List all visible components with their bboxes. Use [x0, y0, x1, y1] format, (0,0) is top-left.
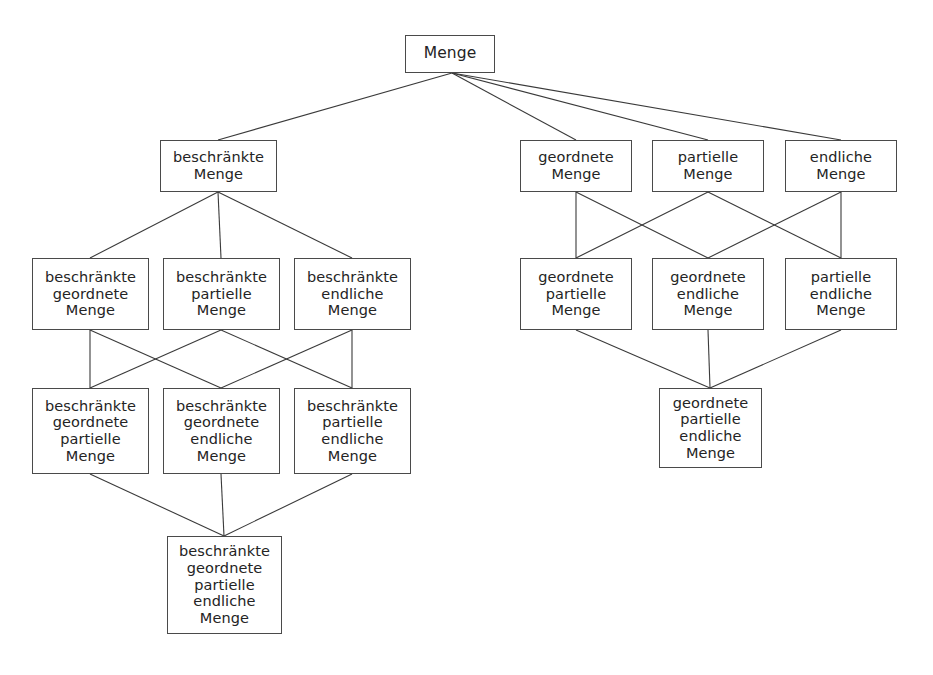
node-label-b-p-endliche: beschränkte partielle endliche Menge — [303, 398, 402, 465]
node-label-b-geordnete: beschränkte geordnete Menge — [41, 269, 140, 319]
node-label-b-partielle: beschränkte partielle Menge — [172, 269, 271, 319]
node-g-endliche[interactable]: geordnete endliche Menge — [652, 258, 764, 330]
node-label-beschraenkte: beschränkte Menge — [169, 149, 268, 182]
node-beschraenkte[interactable]: beschränkte Menge — [160, 140, 277, 192]
node-menge[interactable]: Menge — [405, 35, 495, 73]
node-b-p-endliche[interactable]: beschränkte partielle endliche Menge — [294, 388, 411, 474]
node-label-b-g-p-endliche: beschränkte geordnete partielle endliche… — [175, 543, 274, 626]
node-label-menge: Menge — [420, 45, 481, 63]
node-b-g-p-endliche[interactable]: beschränkte geordnete partielle endliche… — [167, 536, 282, 634]
node-g-p-endliche[interactable]: geordnete partielle endliche Menge — [659, 388, 762, 468]
node-label-endliche: endliche Menge — [806, 149, 876, 182]
node-geordnete[interactable]: geordnete Menge — [520, 140, 632, 192]
node-b-g-endliche[interactable]: beschränkte geordnete endliche Menge — [163, 388, 280, 474]
node-partielle[interactable]: partielle Menge — [652, 140, 764, 192]
node-layer: Mengebeschränkte Mengegeordnete Mengepar… — [0, 0, 933, 675]
node-b-endliche[interactable]: beschränkte endliche Menge — [294, 258, 411, 330]
node-label-geordnete: geordnete Menge — [534, 149, 618, 182]
node-b-g-partielle[interactable]: beschränkte geordnete partielle Menge — [32, 388, 149, 474]
node-label-g-partielle: geordnete partielle Menge — [534, 269, 618, 319]
node-endliche[interactable]: endliche Menge — [785, 140, 897, 192]
mengen-hierarchy-diagram: Mengebeschränkte Mengegeordnete Mengepar… — [0, 0, 933, 675]
node-label-p-endliche: partielle endliche Menge — [806, 269, 876, 319]
node-label-g-p-endliche: geordnete partielle endliche Menge — [669, 395, 753, 462]
node-label-g-endliche: geordnete endliche Menge — [666, 269, 750, 319]
node-g-partielle[interactable]: geordnete partielle Menge — [520, 258, 632, 330]
node-b-geordnete[interactable]: beschränkte geordnete Menge — [32, 258, 149, 330]
node-b-partielle[interactable]: beschränkte partielle Menge — [163, 258, 280, 330]
node-label-b-g-partielle: beschränkte geordnete partielle Menge — [41, 398, 140, 465]
node-label-partielle: partielle Menge — [674, 149, 743, 182]
node-p-endliche[interactable]: partielle endliche Menge — [785, 258, 897, 330]
node-label-b-endliche: beschränkte endliche Menge — [303, 269, 402, 319]
node-label-b-g-endliche: beschränkte geordnete endliche Menge — [172, 398, 271, 465]
